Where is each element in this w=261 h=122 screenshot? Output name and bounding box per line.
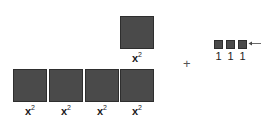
x-squared-label: x2	[120, 104, 154, 117]
unit-label: 1	[214, 50, 223, 62]
plus-sign: +	[183, 56, 191, 71]
unit-tile	[214, 40, 223, 49]
x-squared-label: x2	[85, 104, 119, 117]
x-squared-tile	[85, 69, 119, 102]
x-squared-tile	[120, 69, 154, 102]
x-squared-label-top: x2	[120, 51, 154, 64]
x-squared-tile-top	[120, 16, 154, 49]
unit-tile	[226, 40, 235, 49]
unit-label: 1	[238, 50, 247, 62]
arrow-left-icon	[248, 40, 261, 47]
x-squared-tile	[49, 69, 83, 102]
unit-label: 1	[226, 50, 235, 62]
x-squared-label: x2	[49, 104, 83, 117]
x-squared-tile	[13, 69, 47, 102]
unit-tile	[238, 40, 247, 49]
x-squared-label: x2	[13, 104, 47, 117]
